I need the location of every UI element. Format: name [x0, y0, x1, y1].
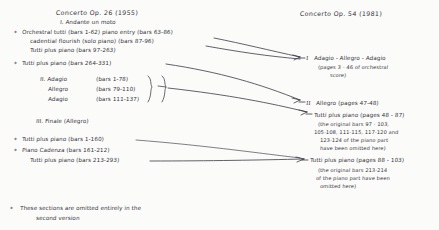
right-block-1-title: Tutti plus piano (pages 48 - 87): [314, 113, 405, 119]
asterisk-marker-m3-a: *: [14, 136, 17, 143]
right-block-1-detail-2: 105-108, 111-115, 117-120 and: [314, 130, 399, 135]
right-block-2-detail-2: of the piano part have been: [316, 176, 390, 181]
right-entry-1-title: Adagio - Allegro - Adagio: [314, 56, 386, 62]
right-block-1-detail-3: 123-124 of the piano part: [320, 138, 388, 143]
right-entry-2-numeral: II: [306, 101, 311, 107]
left-m3-line-1: Tutti plus piano (bars 1-160): [22, 137, 104, 143]
arrow-m1-line4-to-entry-2: [166, 64, 300, 103]
right-block-1-detail-1: (the original bars 97 - 103,: [318, 122, 389, 127]
right-block-2-detail-1: (the original bars 213-214: [318, 168, 388, 173]
asterisk-marker-m1-a: *: [14, 29, 17, 36]
arrow-m1-line2-to-entry-1: [206, 46, 300, 59]
right-block-1-detail-4: have been omitted here): [320, 146, 386, 151]
left-m2-line-3-name: Adagio: [48, 97, 68, 103]
left-m2-line-2-name: Allegro: [48, 87, 69, 93]
arrow-m3-line3-to-block-2: [150, 157, 304, 162]
arrow-m2-brace-to-block-1: [168, 88, 307, 115]
left-m3-line-2: Piano Cadenza (bars 161-212): [22, 148, 110, 154]
arrow-m3-line1-connector: [136, 140, 300, 158]
left-movement-3-label: III. Finale (Allegro): [36, 119, 89, 125]
left-movement-2-label: II. Adagio: [40, 77, 67, 83]
movement-2-inner-tick: [158, 86, 166, 87]
right-entry-1-detail-2: score): [330, 73, 347, 78]
left-m2-line-2-bars: (bars 79-110): [96, 87, 136, 93]
left-m2-line-3-bars: (bars 111-137): [96, 97, 140, 103]
right-column-heading: Concerto Op. 54 (1981): [300, 11, 383, 17]
asterisk-marker-m3-b: *: [14, 147, 17, 154]
arrow-m1-to-entry-1: [214, 38, 300, 60]
footnote-line-2: second version: [36, 216, 80, 222]
footnote-asterisk: *: [10, 205, 13, 212]
left-movement-1-label: I. Andante un moto: [60, 20, 116, 26]
left-m1-line-2: cadential flourish (solo piano) (bars 87…: [30, 39, 154, 45]
left-m1-line-4: Tutti plus piano (bars 264-331): [22, 61, 112, 67]
right-entry-1-numeral: I: [306, 56, 309, 62]
left-m3-line-3: Tutti plus piano (bars 213-293): [30, 158, 120, 164]
footnote-line-1: These sections are omitted entirely in t…: [20, 206, 141, 212]
left-column-heading: Concerto Op. 26 (1955): [56, 10, 139, 16]
right-entry-1-detail-1: (pages 3 - 46 of orchestral: [318, 65, 389, 70]
handwritten-notes-page: Concerto Op. 26 (1955) I. Andante un mot…: [0, 0, 439, 230]
right-block-2-title: Tutti plus piano (pages 88 - 103): [310, 158, 405, 164]
right-entry-2-title: Allegro (pages 47-48): [316, 101, 379, 107]
movement-2-brace: [148, 76, 166, 102]
right-block-2-detail-3: omitted here): [320, 184, 357, 189]
asterisk-marker-m1-b: *: [14, 60, 17, 67]
left-m1-line-1: Orchestral tutti (bars 1-62) piano entry…: [22, 30, 173, 36]
left-m1-line-3: Tutti plus piano (bars 97-263): [30, 48, 116, 54]
left-m2-line-1-bars: (bars 1-78): [96, 77, 129, 83]
